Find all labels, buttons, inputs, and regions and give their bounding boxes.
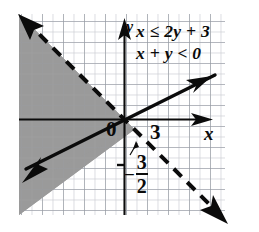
y-axis-label: y xyxy=(126,19,133,35)
fraction-numerator: 3 xyxy=(136,152,148,172)
inequality-2-text: x + y < 0 xyxy=(136,43,210,65)
fraction-denominator: 2 xyxy=(136,176,148,196)
fraction-stack: 3 2 xyxy=(136,152,148,196)
y-intercept-fraction-label: − 3 2 xyxy=(124,152,148,196)
fraction-minus-sign: − xyxy=(124,165,135,184)
x-intercept-label: 3 xyxy=(150,122,161,143)
origin-label: 0 xyxy=(106,119,117,140)
inequality-graph-figure: 0 3 x y x ≤ 2y + 3 x + y < 0 − 3 2 xyxy=(0,0,259,232)
inequality-annotations: x ≤ 2y + 3 x + y < 0 xyxy=(136,21,210,65)
x-axis-label: x xyxy=(204,124,214,143)
inequality-1-text: x ≤ 2y + 3 xyxy=(136,21,210,43)
